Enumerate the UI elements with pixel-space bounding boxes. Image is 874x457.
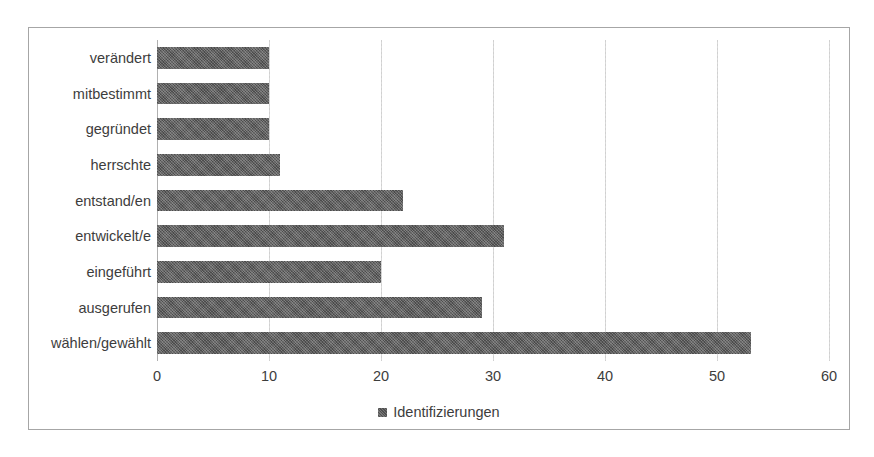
legend-label-identifizierungen: Identifizierungen [393, 404, 499, 420]
y-axis-label-entstand-en: entstand/en [75, 193, 151, 209]
bar-w-hlen-gew-hlt[interactable] [157, 332, 751, 353]
y-axis-label-ver-ndert: verändert [90, 50, 151, 66]
bar-gegr-ndet[interactable] [157, 118, 269, 139]
bar-row [157, 118, 829, 139]
bar-entstand-en[interactable] [157, 190, 403, 211]
y-axis-label-herrschte: herrschte [91, 157, 151, 173]
y-axis-category-labels: verändertmitbestimmtgegründetherrschteen… [29, 40, 151, 361]
y-axis-label-ausgerufen: ausgerufen [78, 300, 151, 316]
x-tick-30: 30 [485, 368, 501, 384]
x-tick-60: 60 [821, 368, 837, 384]
chart-frame: verändertmitbestimmtgegründetherrschteen… [28, 27, 850, 430]
x-tick-40: 40 [597, 368, 613, 384]
legend-swatch-identifizierungen [378, 408, 387, 417]
bar-row [157, 47, 829, 68]
x-tick-0: 0 [153, 368, 161, 384]
bar-entwickelt-e[interactable] [157, 225, 504, 246]
bar-row [157, 297, 829, 318]
x-tick-10: 10 [261, 368, 277, 384]
y-axis-label-eingef-hrt: eingeführt [87, 264, 152, 280]
bar-ver-ndert[interactable] [157, 47, 269, 68]
gridline-60 [829, 40, 830, 361]
bar-herrschte[interactable] [157, 154, 280, 175]
bar-row [157, 154, 829, 175]
x-tick-50: 50 [709, 368, 725, 384]
bar-row [157, 261, 829, 282]
y-axis-label-w-hlen-gew-hlt: wählen/gewählt [51, 335, 151, 351]
y-axis-label-entwickelt-e: entwickelt/e [75, 228, 151, 244]
chart-legend: Identifizierungen [29, 404, 849, 420]
y-axis-label-gegr-ndet: gegründet [86, 121, 151, 137]
x-axis-tick-labels: 0102030405060 [157, 368, 829, 392]
bar-mitbestimmt[interactable] [157, 83, 269, 104]
bar-ausgerufen[interactable] [157, 297, 482, 318]
plot-area [157, 40, 829, 361]
x-tick-20: 20 [373, 368, 389, 384]
bar-row [157, 83, 829, 104]
bar-eingef-hrt[interactable] [157, 261, 381, 282]
bar-row [157, 225, 829, 246]
page-scan-artifact [60, 437, 814, 453]
bar-row [157, 332, 829, 353]
y-axis-label-mitbestimmt: mitbestimmt [73, 86, 151, 102]
bar-row [157, 190, 829, 211]
